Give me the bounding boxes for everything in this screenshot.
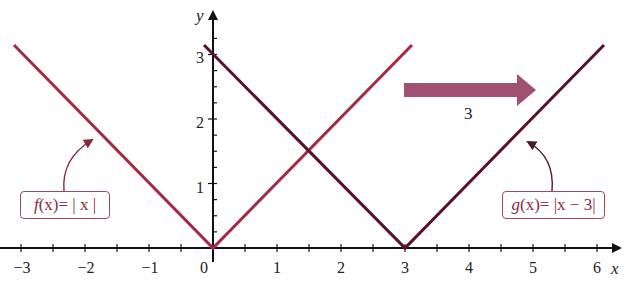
f-function-label: f(x) = | x |	[20, 191, 110, 219]
g-function-name: g	[511, 195, 520, 215]
x-tick-label: 3	[401, 259, 409, 276]
g-function-rhs: = |x − 3|	[540, 195, 596, 215]
shift-arrow-icon	[404, 74, 536, 106]
x-axis-label: x	[610, 259, 619, 278]
x-tick-label: 5	[529, 259, 537, 276]
x-tick-label: 0	[200, 259, 208, 276]
graph-plot: −3 −2 −1 0 1 2 3 4 5 6 1 2 3 x y	[0, 0, 627, 297]
x-tick-label: −3	[13, 259, 30, 276]
x-tick-label: 1	[273, 259, 281, 276]
y-tick-labels: 1 2 3	[196, 49, 204, 196]
x-tick-label: 6	[593, 259, 601, 276]
f-function-arg: (x)	[39, 195, 59, 215]
g-function-arg: (x)	[520, 195, 540, 215]
f-function-rhs: = | x |	[58, 195, 96, 215]
y-tick-label: 2	[196, 114, 204, 131]
y-tick-label: 3	[196, 49, 204, 66]
x-tick-labels: −3 −2 −1 0 1 2 3 4 5 6	[13, 259, 601, 276]
x-tick-label: 4	[465, 259, 473, 276]
y-tick-label: 1	[196, 179, 204, 196]
shift-amount-label: 3	[464, 104, 473, 124]
g-function-label: g(x) = |x − 3|	[502, 191, 605, 219]
g-callout-arrow-icon	[528, 142, 552, 191]
x-tick-label: −2	[77, 259, 94, 276]
x-tick-label: 2	[337, 259, 345, 276]
f-callout-arrow-icon	[64, 140, 92, 191]
y-axis-label: y	[194, 6, 204, 25]
x-tick-label: −1	[141, 259, 158, 276]
